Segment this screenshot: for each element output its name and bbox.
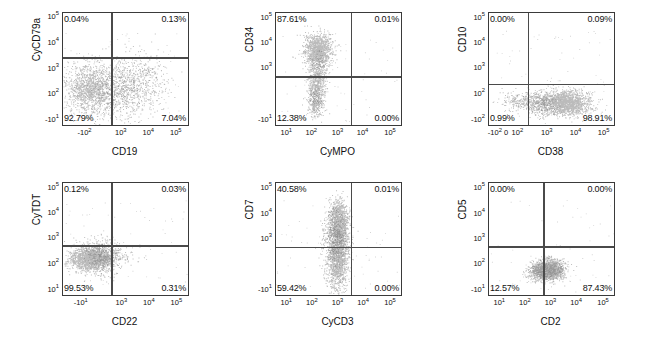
y-tick-label: 103 xyxy=(260,63,272,72)
event-dots xyxy=(489,13,614,125)
y-tick-label: -101 xyxy=(258,284,272,293)
quadrant-percent-upper-left: 87.61% xyxy=(277,15,306,24)
x-tick-label: 105 xyxy=(384,298,396,307)
quadrant-horizontal-line[interactable] xyxy=(489,84,614,85)
y-tick-label: -102 xyxy=(471,114,485,123)
y-tick-label: -101 xyxy=(45,114,59,123)
quadrant-percent-lower-right: 0.31% xyxy=(161,284,186,293)
y-axis-ticks: 105104103-101 xyxy=(239,12,272,124)
quadrant-percent-upper-right: 0.13% xyxy=(161,15,186,24)
x-axis-label: CyCD3 xyxy=(275,316,400,327)
quadrant-horizontal-line[interactable] xyxy=(276,76,401,77)
quadrant-vertical-line[interactable] xyxy=(111,13,112,125)
quadrant-percent-lower-left: 12.38% xyxy=(277,114,306,123)
y-tick-label: 105 xyxy=(260,13,272,22)
plot-area[interactable]: 0.00%0.00%12.57%87.43% xyxy=(488,182,615,296)
quadrant-horizontal-line[interactable] xyxy=(489,246,614,247)
x-tick-label: 103 xyxy=(116,298,128,307)
y-axis-ticks: 105104103-101 xyxy=(239,182,272,294)
quadrant-vertical-line[interactable] xyxy=(351,13,352,125)
flow-cytometry-figure: CyCD79a105104103102-1010.04%0.13%92.79%7… xyxy=(0,0,648,339)
quadrant-horizontal-line[interactable] xyxy=(63,57,188,58)
quadrant-vertical-line[interactable] xyxy=(351,183,352,295)
x-tick-label: 102 xyxy=(519,298,531,307)
x-axis-ticks: -1020102103104105 xyxy=(488,128,613,140)
y-tick-label: 103 xyxy=(47,233,59,242)
y-tick-label: 105 xyxy=(260,183,272,192)
x-axis-ticks: -102103104105 xyxy=(62,128,187,140)
y-tick-label: 104 xyxy=(260,38,272,47)
event-dots xyxy=(63,13,188,125)
quadrant-horizontal-line[interactable] xyxy=(63,245,188,246)
y-tick-label: 105 xyxy=(47,12,59,21)
y-tick-label: -101 xyxy=(471,284,485,293)
y-tick-label: 105 xyxy=(473,13,485,22)
x-tick-label: 104 xyxy=(357,298,369,307)
quadrant-percent-lower-right: 0.00% xyxy=(374,114,399,123)
x-tick-label: 104 xyxy=(143,298,155,307)
x-tick-label: 103 xyxy=(332,298,344,307)
y-tick-label: 102 xyxy=(473,88,485,97)
quadrant-percent-lower-left: 92.79% xyxy=(64,114,93,123)
event-dots xyxy=(276,183,401,295)
x-axis-ticks: 101102103104105 xyxy=(275,298,400,310)
quadrant-percent-upper-right: 0.03% xyxy=(161,185,186,194)
y-tick-label: 104 xyxy=(47,208,59,217)
x-axis-label: CD38 xyxy=(488,146,613,157)
y-tick-label: -101 xyxy=(258,114,272,123)
y-axis-ticks: 105104103102-101 xyxy=(452,182,485,294)
x-axis-label: CD22 xyxy=(62,316,187,327)
quadrant-percent-upper-right: 0.01% xyxy=(374,15,399,24)
x-tick-label: 103 xyxy=(541,128,553,137)
x-axis-label: CD19 xyxy=(62,146,187,157)
x-tick-label: 101 xyxy=(493,298,505,307)
quadrant-vertical-line[interactable] xyxy=(543,183,544,295)
x-tick-label: 105 xyxy=(171,298,183,307)
y-tick-label: 101 xyxy=(47,284,59,293)
quadrant-percent-upper-left: 40.58% xyxy=(277,185,306,194)
x-tick-label: 104 xyxy=(142,128,154,137)
x-axis-ticks: 101102103104105 xyxy=(275,128,400,140)
y-axis-ticks: 105104103102-101 xyxy=(26,12,59,124)
plot-area[interactable]: 40.58%0.01%59.42%0.00% xyxy=(275,182,402,296)
y-tick-label: 104 xyxy=(260,208,272,217)
quadrant-percent-upper-left: 0.12% xyxy=(64,185,89,194)
x-tick-label: 103 xyxy=(115,128,127,137)
quadrant-vertical-line[interactable] xyxy=(528,13,529,125)
y-tick-label: 104 xyxy=(473,38,485,47)
quadrant-percent-lower-left: 0.99% xyxy=(490,114,515,123)
plot-area[interactable]: 0.04%0.13%92.79%7.04% xyxy=(62,12,189,126)
y-tick-label: 104 xyxy=(473,208,485,217)
x-tick-label: 102 xyxy=(305,128,317,137)
x-axis-ticks: -101103104105 xyxy=(62,298,187,310)
y-tick-label: 103 xyxy=(260,234,272,243)
panel-cd34-cympo: CD34105104103-10187.61%0.01%12.38%0.00%1… xyxy=(213,0,426,169)
quadrant-vertical-line[interactable] xyxy=(111,183,112,295)
y-tick-label: 102 xyxy=(473,259,485,268)
y-tick-label: 103 xyxy=(47,64,59,73)
y-tick-label: 102 xyxy=(47,258,59,267)
x-tick-label: 101 xyxy=(280,298,292,307)
x-tick-label: 104 xyxy=(357,128,369,137)
y-axis-ticks: 105104103102101 xyxy=(26,182,59,294)
quadrant-percent-upper-right: 0.01% xyxy=(374,185,399,194)
y-tick-label: 104 xyxy=(47,38,59,47)
x-tick-label: 101 xyxy=(280,128,292,137)
quadrant-percent-upper-left: 0.00% xyxy=(490,15,515,24)
x-tick-label: -102 xyxy=(488,128,502,137)
quadrant-percent-lower-left: 12.57% xyxy=(490,284,519,293)
panel-cd79a-cd19: CyCD79a105104103102-1010.04%0.13%92.79%7… xyxy=(0,0,213,169)
quadrant-percent-upper-left: 0.04% xyxy=(64,15,89,24)
y-tick-label: 103 xyxy=(473,234,485,243)
plot-area[interactable]: 0.00%0.09%0.99%98.91% xyxy=(488,12,615,126)
x-tick-label: 102 xyxy=(512,128,524,137)
y-tick-label: 105 xyxy=(473,183,485,192)
y-tick-label: 102 xyxy=(47,88,59,97)
quadrant-percent-lower-right: 7.04% xyxy=(161,114,186,123)
quadrant-horizontal-line[interactable] xyxy=(276,247,401,248)
plot-area[interactable]: 0.12%0.03%99.53%0.31% xyxy=(62,182,189,296)
plot-area[interactable]: 87.61%0.01%12.38%0.00% xyxy=(275,12,402,126)
x-tick-label: 105 xyxy=(597,298,609,307)
event-dots xyxy=(63,183,188,295)
quadrant-percent-upper-left: 0.00% xyxy=(490,185,515,194)
